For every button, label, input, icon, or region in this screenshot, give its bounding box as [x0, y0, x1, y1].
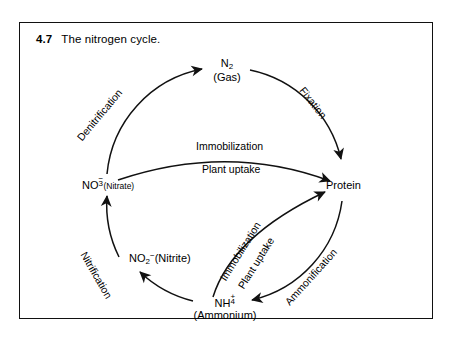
node-nitrite-secondary: (Nitrite) [155, 252, 191, 264]
node-nitrite-formula: NO2− [129, 252, 155, 264]
node-ammonium-secondary: (Ammonium) [180, 310, 270, 322]
node-nitrite: NO2−(Nitrite) [129, 252, 225, 266]
node-protein-label: Protein [326, 179, 361, 191]
node-dinitrogen: N2 (Gas) [206, 58, 248, 84]
node-ammonium-formula: NH+4 [180, 296, 270, 310]
arc-denitrification [107, 69, 202, 174]
node-nitrate-formula: NO−3 [82, 179, 104, 191]
process-immobilization-upper: Immobilization [196, 141, 263, 152]
node-nitrate: NO−3(Nitrate) [82, 178, 178, 192]
node-protein: Protein [326, 180, 370, 192]
process-plant-uptake-upper: Plant uptake [202, 164, 260, 175]
figure-root: 4.7The nitrogen cycle. N2 (Ga [0, 0, 453, 358]
node-dinitrogen-formula: N2 [206, 58, 248, 72]
node-nitrate-secondary: (Nitrate) [104, 181, 135, 191]
node-dinitrogen-secondary: (Gas) [206, 72, 248, 84]
arc-nitrification-to-nitrate [107, 196, 119, 257]
node-ammonium: NH+4 (Ammonium) [180, 296, 270, 322]
